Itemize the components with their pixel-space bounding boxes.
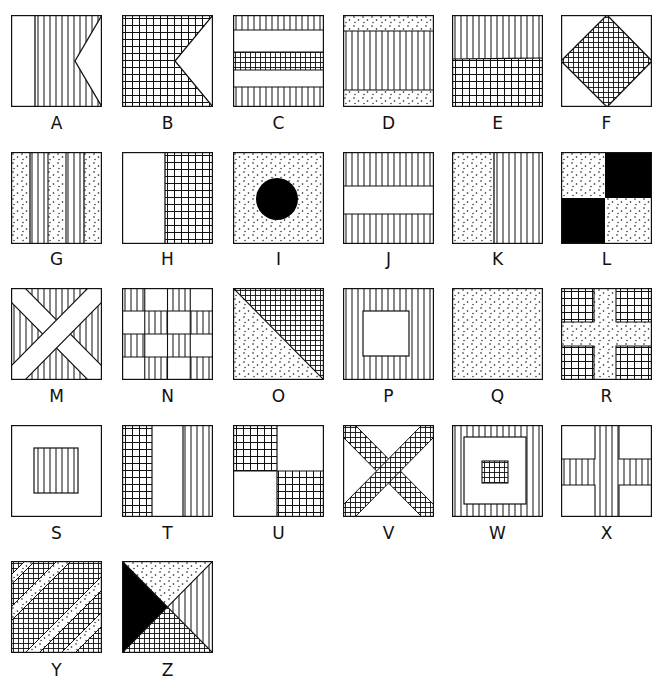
flag-q-graphic bbox=[452, 288, 543, 380]
flag-q-label: Q bbox=[452, 386, 543, 406]
flag-a bbox=[11, 15, 102, 107]
flag-y-label: Y bbox=[11, 660, 102, 680]
flag-y-graphic bbox=[11, 561, 102, 653]
flag-w-graphic bbox=[452, 425, 543, 517]
flag-g-graphic bbox=[11, 152, 102, 244]
flag-p-graphic bbox=[343, 288, 434, 380]
flag-n-label: N bbox=[122, 386, 213, 406]
flag-e-label: E bbox=[452, 113, 543, 133]
flag-x-graphic bbox=[561, 425, 652, 517]
flag-u-graphic bbox=[233, 425, 324, 517]
flag-o bbox=[233, 288, 324, 380]
flag-s bbox=[11, 425, 102, 517]
flag-p-label: P bbox=[343, 386, 434, 406]
flag-x-label: X bbox=[561, 523, 652, 543]
flag-w bbox=[452, 425, 543, 517]
flag-z-graphic bbox=[122, 561, 213, 653]
flag-h-label: H bbox=[122, 249, 213, 269]
flag-c-graphic bbox=[233, 15, 324, 107]
flag-y bbox=[11, 561, 102, 653]
flag-n-graphic bbox=[122, 288, 213, 380]
flag-r bbox=[561, 288, 652, 380]
flag-b bbox=[122, 15, 213, 107]
flag-j-graphic bbox=[343, 152, 434, 244]
flag-p bbox=[343, 288, 434, 380]
flag-f-graphic bbox=[561, 15, 652, 107]
flag-w-label: W bbox=[452, 523, 543, 543]
flag-j bbox=[343, 152, 434, 244]
flag-b-graphic bbox=[122, 15, 213, 107]
flag-b-label: B bbox=[122, 113, 213, 133]
flag-z-label: Z bbox=[122, 660, 213, 680]
flag-h bbox=[122, 152, 213, 244]
flag-g-label: G bbox=[11, 249, 102, 269]
flag-t bbox=[122, 425, 213, 517]
flag-c-label: C bbox=[233, 113, 324, 133]
flag-i-label: I bbox=[233, 249, 324, 269]
flag-d bbox=[343, 15, 434, 107]
flag-k-graphic bbox=[452, 152, 543, 244]
flag-l-graphic bbox=[561, 152, 652, 244]
flag-r-graphic bbox=[561, 288, 652, 380]
flag-c bbox=[233, 15, 324, 107]
flag-o-label: O bbox=[233, 386, 324, 406]
flag-k bbox=[452, 152, 543, 244]
flag-n bbox=[122, 288, 213, 380]
flag-e bbox=[452, 15, 543, 107]
flag-j-label: J bbox=[343, 249, 434, 269]
flag-m-label: M bbox=[11, 386, 102, 406]
flag-l-label: L bbox=[561, 249, 652, 269]
flag-k-label: K bbox=[452, 249, 543, 269]
flag-s-label: S bbox=[11, 523, 102, 543]
flag-f-label: F bbox=[561, 113, 652, 133]
flag-f bbox=[561, 15, 652, 107]
flag-v bbox=[343, 425, 434, 517]
flag-d-label: D bbox=[343, 113, 434, 133]
flag-s-graphic bbox=[11, 425, 102, 517]
flag-o-graphic bbox=[233, 288, 324, 380]
flag-t-label: T bbox=[122, 523, 213, 543]
flag-g bbox=[11, 152, 102, 244]
flag-u-label: U bbox=[233, 523, 324, 543]
flag-a-graphic bbox=[11, 15, 102, 107]
flag-v-label: V bbox=[343, 523, 434, 543]
flag-x bbox=[561, 425, 652, 517]
flag-q bbox=[452, 288, 543, 380]
flag-v-graphic bbox=[343, 425, 434, 517]
flag-t-graphic bbox=[122, 425, 213, 517]
flag-e-graphic bbox=[452, 15, 543, 107]
flag-z bbox=[122, 561, 213, 653]
flag-r-label: R bbox=[561, 386, 652, 406]
flag-m bbox=[11, 288, 102, 380]
flag-m-graphic bbox=[11, 288, 102, 380]
flag-u bbox=[233, 425, 324, 517]
flag-d-graphic bbox=[343, 15, 434, 107]
flag-a-label: A bbox=[11, 113, 102, 133]
flag-l bbox=[561, 152, 652, 244]
flag-i bbox=[233, 152, 324, 244]
flag-h-graphic bbox=[122, 152, 213, 244]
flag-i-graphic bbox=[233, 152, 324, 244]
